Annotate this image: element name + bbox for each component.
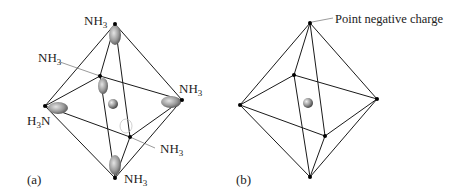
lone-pair-lobe-top xyxy=(109,25,121,45)
lone-pair-lobe-back xyxy=(98,78,108,94)
metal-ion xyxy=(108,99,118,109)
panel-a: NH3 NH3 NH3 H3N NH3 NH3 (a) xyxy=(27,13,203,188)
lone-pair-lobe-right xyxy=(161,96,181,108)
panel-b-label: (b) xyxy=(236,172,251,187)
callout-leader-line xyxy=(312,18,333,22)
lone-pair-lobe-front-faint xyxy=(120,119,132,133)
leader-line-back xyxy=(60,62,100,76)
ligand-label-top: NH3 xyxy=(84,13,108,30)
diagram-canvas: NH3 NH3 NH3 H3N NH3 NH3 (a) xyxy=(0,0,459,196)
panel-b: Point negative charge (b) xyxy=(236,12,444,187)
ligand-label-right: NH3 xyxy=(179,81,203,98)
ligand-label-back: NH3 xyxy=(38,50,62,67)
lone-pair-lobe-bottom xyxy=(109,155,121,175)
metal-ion xyxy=(303,98,313,108)
callout-point-negative-charge: Point negative charge xyxy=(335,12,444,26)
panel-a-label: (a) xyxy=(27,172,41,187)
figure-octahedral-complex: NH3 NH3 NH3 H3N NH3 NH3 (a) xyxy=(0,0,459,196)
ligand-label-left: H3N xyxy=(27,113,51,130)
ligand-label-front: NH3 xyxy=(160,141,184,158)
lone-pair-lobe-left xyxy=(48,102,68,114)
ligand-label-bottom: NH3 xyxy=(124,171,148,188)
